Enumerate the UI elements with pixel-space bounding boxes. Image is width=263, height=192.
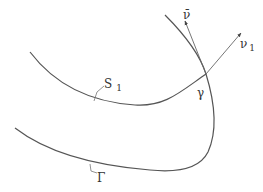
label-nu-1: ν1 <box>240 37 255 53</box>
label-gamma: γ <box>197 86 204 100</box>
leader-Gamma <box>90 164 97 173</box>
diagram-canvas: ν̄ ν1 S1 γ Γ <box>0 0 263 192</box>
label-nu-bar: ν̄ <box>183 8 190 22</box>
vector-nu-1 <box>206 33 241 74</box>
label-S1: S1 <box>104 77 122 93</box>
curve-S1 <box>30 52 206 105</box>
label-Gamma: Γ <box>97 171 105 185</box>
vector-nu-bar <box>185 21 206 74</box>
curve-Gamma <box>15 15 214 171</box>
